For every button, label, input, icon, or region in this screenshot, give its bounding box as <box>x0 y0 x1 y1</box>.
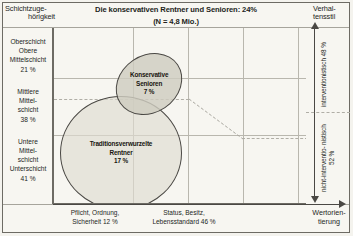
arrow-up-icon <box>311 22 319 29</box>
left-axis-block-middle-line3: schicht <box>3 106 53 115</box>
boundary-dashed-lower <box>242 138 306 139</box>
right-axis-label-nicht-interventionistisch: nicht-interventio- nistisch 52 % <box>320 120 337 196</box>
left-axis-column: Oberschicht Obere Mittelschicht 21 % Mit… <box>3 28 53 204</box>
left-axis-block-upper: Oberschicht Obere Mittelschicht 21 % <box>3 38 53 75</box>
left-axis-block-lower-line2: Mittel- <box>3 147 53 156</box>
bubble-rentner-pct: 17 % <box>90 157 153 166</box>
chart-subtitle: (N = 4,8 Mio.) <box>62 18 290 27</box>
bubble-senioren-line1: Konservative <box>130 71 168 80</box>
bubble-label: Traditionsverwurzelte Rentner 17 % <box>90 140 153 166</box>
left-axis-block-upper-pct: 21 % <box>3 66 53 75</box>
chart-title: Die konservativen Rentner und Senioren: … <box>62 6 290 26</box>
bubble-label: Konservative Senioren 7 % <box>130 71 168 97</box>
bubble-senioren-pct: 7 % <box>130 88 168 97</box>
arrow-down-icon <box>311 196 319 203</box>
left-axis-block-upper-line1: Oberschicht <box>3 38 53 47</box>
left-axis-title-line2: hörigkeit <box>5 13 61 21</box>
boundary-diagonal <box>188 94 246 146</box>
left-axis-block-lower-line3: schicht <box>3 156 53 165</box>
left-axis-block-upper-line3: Mittelschicht <box>3 56 53 65</box>
left-axis-block-lower: Untere Mittel- schicht Unterschicht 41 % <box>3 138 53 183</box>
left-axis-block-middle-line2: Mittel- <box>3 97 53 106</box>
right-axis-title-line2: tensstil <box>313 13 351 21</box>
bottom-axis-label-pflicht: Pflicht, Ordnung, Sicherheit 12 % <box>57 209 133 227</box>
plot-area: Traditionsverwurzelte Rentner 17 % Konse… <box>53 28 306 204</box>
bubble-rentner-line2: Rentner <box>90 149 153 158</box>
left-axis-block-lower-pct: 41 % <box>3 175 53 184</box>
vertical-axis-line <box>314 28 315 200</box>
bottom-axis-label-status-line2: Lebensstandard 46 % <box>138 218 230 227</box>
right-axis-title: Verhal- tensstil <box>313 5 351 22</box>
bottom-axis-label-status-line1: Status, Besitz, <box>138 209 230 218</box>
left-axis-block-middle-pct: 38 % <box>3 116 53 125</box>
bottom-right-axis-title: Wertorien- tierung <box>308 209 350 226</box>
gridline-vertical <box>298 28 299 203</box>
bottom-axis-label-status: Status, Besitz, Lebensstandard 46 % <box>138 209 230 227</box>
horizontal-axis-line <box>53 204 341 205</box>
bubble-traditionsverwurzelte-rentner[interactable]: Traditionsverwurzelte Rentner 17 % <box>60 96 182 204</box>
bubble-rentner-line1: Traditionsverwurzelte <box>90 140 153 149</box>
arrow-right-icon <box>339 200 346 208</box>
left-axis-title: Schichtzuge- hörigkeit <box>5 5 61 22</box>
chart-title-main: Die konservativen Rentner und Senioren: … <box>95 5 257 14</box>
figure-root: Schichtzuge- hörigkeit Die konservativen… <box>0 0 353 236</box>
left-axis-block-middle: Mittlere Mittel- schicht 38 % <box>3 88 53 125</box>
right-axis-divider <box>306 112 350 113</box>
bottom-axis-label-pflicht-line1: Pflicht, Ordnung, <box>57 209 133 218</box>
left-axis-block-middle-line1: Mittlere <box>3 88 53 97</box>
left-axis-block-lower-line1: Untere <box>3 138 53 147</box>
bubble-senioren-line2: Senioren <box>130 80 168 89</box>
left-axis-block-upper-line2: Obere <box>3 47 53 56</box>
left-axis-block-lower-line4: Unterschicht <box>3 165 53 174</box>
bottom-axis-label-pflicht-line2: Sicherheit 12 % <box>57 218 133 227</box>
right-axis-column: interventionistisch 48 % nicht-intervent… <box>306 28 350 204</box>
right-axis-label-interventionistisch: interventionistisch 48 % <box>320 42 328 108</box>
bottom-right-axis-title-line2: tierung <box>308 218 350 227</box>
